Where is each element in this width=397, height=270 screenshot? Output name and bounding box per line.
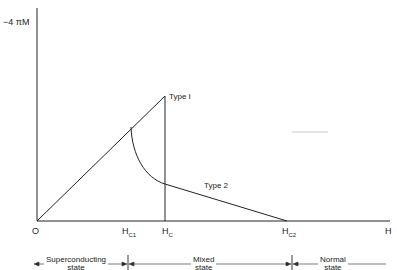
magnetization-diagram: [0, 0, 397, 270]
x-axis-label: H: [385, 227, 392, 236]
type-2-curve: [131, 127, 287, 221]
y-axis-label: −4 πM: [3, 18, 29, 27]
state-normal: Normal state: [318, 256, 348, 270]
tick-hc2: HC2: [282, 227, 296, 236]
state-mixed: Mixed state: [191, 256, 216, 270]
type-2-label: Type 2: [204, 182, 228, 190]
type-1-label: Type I: [169, 93, 191, 101]
tick-hc: HC: [162, 227, 173, 236]
origin-label: O: [32, 227, 39, 236]
type-1-curve: [37, 96, 165, 221]
scan-artifact: [292, 131, 328, 133]
state-superconducting: Superconducting state: [44, 256, 108, 270]
tick-hc1: HC1: [122, 227, 136, 236]
